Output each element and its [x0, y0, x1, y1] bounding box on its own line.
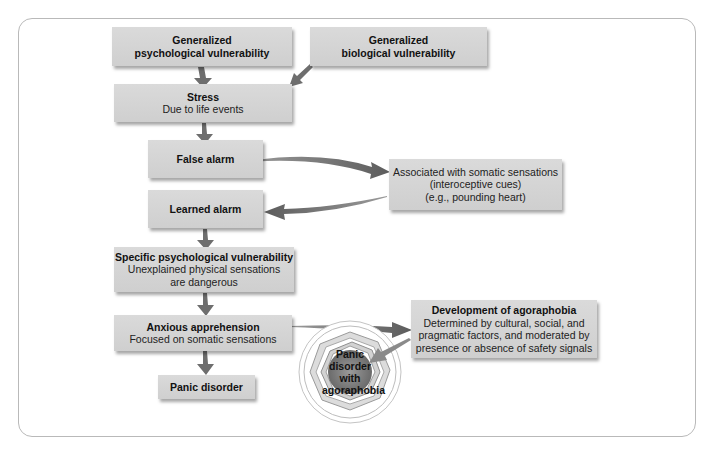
- box-line1: Determined by cultural, social, and: [423, 317, 584, 330]
- box-generalized-biological-vulnerability: Generalized biological vulnerability: [310, 27, 487, 66]
- box-title: Generalized: [369, 34, 429, 47]
- box-stress: Stress Due to life events: [114, 84, 292, 122]
- box-subtitle: Due to life events: [162, 103, 243, 116]
- box-specific-psychological-vulnerability: Specific psychological vulnerability Une…: [114, 247, 294, 292]
- box-title: Generalized: [172, 34, 232, 47]
- box-title: Learned alarm: [170, 203, 242, 216]
- box-learned-alarm: Learned alarm: [148, 190, 263, 228]
- target-line4: agoraphobia: [322, 384, 378, 396]
- box-line1: Unexplained physical sensations: [128, 263, 280, 276]
- target-label-panic-disorder-with-agoraphobia: Panic disorder with agoraphobia: [322, 348, 378, 396]
- target-line2: disorder: [322, 360, 378, 372]
- box-title: Anxious apprehension: [146, 321, 259, 334]
- box-associated-somatic-sensations: Associated with somatic sensations (inte…: [389, 159, 562, 210]
- box-false-alarm: False alarm: [148, 140, 263, 178]
- box-development-of-agoraphobia: Development of agoraphobia Determined by…: [411, 300, 597, 358]
- box-generalized-psychological-vulnerability: Generalized psychological vulnerability: [112, 27, 292, 66]
- arrow-anxious-to-panic: [197, 351, 214, 375]
- box-panic-disorder: Panic disorder: [158, 375, 255, 399]
- box-title: Development of agoraphobia: [432, 304, 577, 317]
- box-line1: Associated with somatic sensations: [393, 166, 558, 179]
- arrow-bio-to-stress: [289, 64, 313, 87]
- box-anxious-apprehension: Anxious apprehension Focused on somatic …: [114, 315, 292, 351]
- arrow-specific-to-anxious: [197, 293, 214, 316]
- arrow-associated-to-learned: [264, 196, 387, 220]
- box-title-line2: psychological vulnerability: [135, 47, 270, 60]
- box-title: Stress: [187, 91, 219, 104]
- box-line2: pragmatic factors, and moderated by: [418, 329, 589, 342]
- arrow-false-to-associated: [248, 157, 390, 179]
- target-line3: with: [322, 372, 378, 384]
- box-subtitle: Focused on somatic sensations: [129, 333, 276, 346]
- box-title: Specific psychological vulnerability: [115, 251, 293, 264]
- box-title-line2: biological vulnerability: [342, 47, 456, 60]
- target-line1: Panic: [322, 348, 378, 360]
- box-title: Panic disorder: [170, 381, 243, 394]
- box-line2: (interoceptive cues): [430, 178, 522, 191]
- box-line3: (e.g., pounding heart): [425, 191, 525, 204]
- box-line2: are dangerous: [170, 276, 238, 289]
- box-title: False alarm: [177, 153, 235, 166]
- box-line3: presence or absence of safety signals: [416, 342, 592, 355]
